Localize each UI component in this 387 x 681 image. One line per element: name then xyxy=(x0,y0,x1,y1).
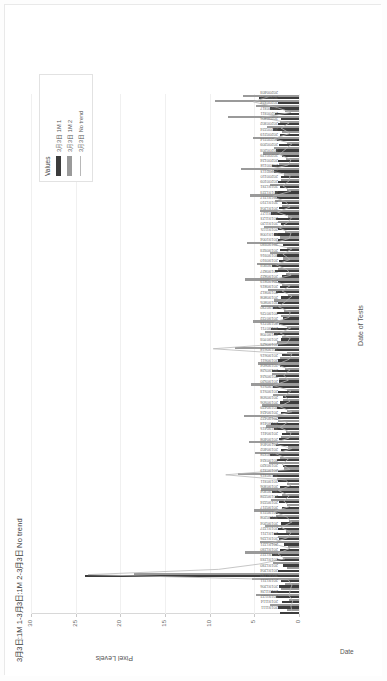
plot-wrapper: 3月3日:1M 1-3月3日:1M 2-3月3日 No trend 051015… xyxy=(5,5,382,676)
y-tick-mark xyxy=(165,614,166,617)
x-tick-label: 20191210 xyxy=(260,200,278,205)
x-tick-label: 20191211 xyxy=(260,578,278,583)
x-tick-label: 20190508 xyxy=(260,395,278,400)
x-tick-label: 20200203 xyxy=(260,148,278,153)
y-tick-mark xyxy=(299,614,300,617)
x-tick-label: 20190319 xyxy=(260,468,278,473)
x-tick-label: 20191111 xyxy=(261,605,278,610)
y-axis-title: Pixel Levels xyxy=(96,655,133,662)
x-tick-label: 20200317 xyxy=(260,106,278,111)
x-tick-label: 20190903 xyxy=(260,263,278,268)
x-tick-label: 20190930 xyxy=(260,242,278,247)
x-tick-label: 20190805 xyxy=(260,300,278,305)
x-tick-label: 20190224 xyxy=(260,500,278,505)
x-tick-label: 20191123 xyxy=(260,216,278,221)
x-tick-label: 20190611 xyxy=(260,358,278,363)
x-tick-label: 20190604 xyxy=(260,363,278,368)
x-tick-label: 20190408 xyxy=(260,437,278,442)
x-tick-label: 20190524 xyxy=(260,374,278,379)
x-tick-label: 20200311 xyxy=(260,111,278,116)
x-tick-label: 20191206 xyxy=(260,584,278,589)
x-tick-label: 20190625 xyxy=(260,342,278,347)
x-tick-label: 20200324 xyxy=(260,100,278,105)
x-tick-label: 20200109 xyxy=(260,179,278,184)
x-tick-label: 20190722 xyxy=(260,316,278,321)
x-tick-label: 20190910 xyxy=(260,258,278,263)
chart-figure: 3月3日:1M 1-3月3日:1M 2-3月3日 No trend 051015… xyxy=(5,5,382,676)
x-tick-label: 20190304 xyxy=(260,489,278,494)
x-tick-label: 20191204 xyxy=(260,206,278,211)
x-tick-label: 20190213 xyxy=(260,510,278,515)
x-tick-label: 20190422 xyxy=(260,416,278,421)
x-tick-label: 20191114 xyxy=(261,599,278,604)
legend-item: 3月3日 1M 1 xyxy=(54,80,63,176)
x-tick-label: 20190315 xyxy=(260,473,278,478)
y-tick-mark xyxy=(31,614,32,617)
x-tick-label: 20190324 xyxy=(260,458,278,463)
x-tick-label: 20191217 xyxy=(260,195,278,200)
x-tick-label: 20191230 xyxy=(260,563,278,568)
x-tick-label: 20191223 xyxy=(260,190,278,195)
x-tick-label: 20200124 xyxy=(260,158,278,163)
x-tick-label: 20200214 xyxy=(260,137,278,142)
legend-title: Values xyxy=(44,80,51,176)
x-tick-label: 20190515 xyxy=(260,384,278,389)
x-tick-label: 20190228 xyxy=(260,494,278,499)
y-tick-label: 30 xyxy=(27,620,33,642)
y-tick-label: 0 xyxy=(295,620,301,642)
x-tick-label: 20190708 xyxy=(260,332,278,337)
legend-item-label: 3月3日 1M 2 xyxy=(66,120,74,152)
x-tick-label: 20190306 xyxy=(260,484,278,489)
corner-date-label: Date xyxy=(340,648,354,655)
legend-item-label: 3月3日 1M 1 xyxy=(55,120,63,152)
x-tick-label: 20190618 xyxy=(260,347,278,352)
x-tick-label: 20200403 xyxy=(260,90,278,95)
legend-swatch xyxy=(80,156,82,176)
x-tick-label: 20200219 xyxy=(260,132,278,137)
x-tick-label: 20190703 xyxy=(260,337,278,342)
legend: Values 3月3日 1M 13月3日 1M 23月3日 No trend xyxy=(39,74,93,182)
x-tick-label: 20191231 xyxy=(260,185,278,190)
x-tick-label: 20190424 xyxy=(260,410,278,415)
x-tick-label: 20190725 xyxy=(260,311,278,316)
x-tick-label: 20190812 xyxy=(260,290,278,295)
x-tick-label: 20190520 xyxy=(260,379,278,384)
x-tick-label: 20191120 xyxy=(260,221,278,226)
x-tick-label: 20191227 xyxy=(260,526,278,531)
y-tick-label: 10 xyxy=(206,620,212,642)
x-tick-label: 20190415 xyxy=(260,426,278,431)
x-tick-label: 20190711 xyxy=(260,326,278,331)
x-tick-label: 20191230 xyxy=(260,547,278,552)
x-tick-label: 20191221 xyxy=(260,542,278,547)
legend-item: 3月3日 1M 2 xyxy=(65,80,74,176)
rotated-stage: 3月3日:1M 1-3月3日:1M 2-3月3日 No trend 051015… xyxy=(0,0,387,681)
x-tick-label: 20190411 xyxy=(260,431,278,436)
y-tick-mark xyxy=(254,614,255,617)
x-tick-label: 20190208 xyxy=(260,515,278,520)
x-tick-label: 20190827 xyxy=(260,269,278,274)
x-tick-label: 20190320 xyxy=(260,463,278,468)
x-tick-label: 20200327 xyxy=(260,95,278,100)
x-tick-label: 20191227 xyxy=(260,552,278,557)
x-tick-label: 20191211 xyxy=(260,531,278,536)
x-tick-label: 20200129 xyxy=(260,153,278,158)
x-tick-labels: 2019111120191114201911222019112820191206… xyxy=(274,94,352,614)
x-tick-label: 20190528 xyxy=(260,368,278,373)
y-tick-label: 25 xyxy=(72,620,78,642)
x-tick-label: 20190311 xyxy=(260,479,278,484)
legend-item: 3月3日 No trend xyxy=(76,80,85,176)
legend-swatch xyxy=(67,156,72,176)
x-tick-label: 20190429 xyxy=(260,405,278,410)
y-tick-label: 5 xyxy=(250,620,256,642)
x-tick-label: 20200118 xyxy=(260,163,278,168)
x-tick-label: 20200306 xyxy=(260,116,278,121)
x-tick-label: 20190402 xyxy=(260,447,278,452)
y-tick-label: 15 xyxy=(161,620,167,642)
x-tick-label: 20191004 xyxy=(260,237,278,242)
legend-swatch xyxy=(56,156,61,176)
x-axis-title-text: Date of Tests xyxy=(357,305,364,346)
x-tick-label: 20191226 xyxy=(260,536,278,541)
x-tick-label: 20191128 xyxy=(260,589,278,594)
x-tick-label: 20190328 xyxy=(260,452,278,457)
x-tick-label: 20190217 xyxy=(260,505,278,510)
